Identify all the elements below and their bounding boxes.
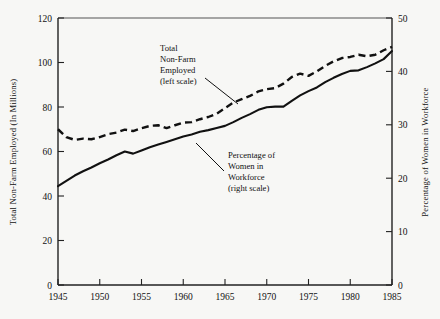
annotation-total-line-4: (left scale) bbox=[160, 76, 197, 86]
x-ticklabel-1950: 1950 bbox=[90, 292, 109, 302]
annotation-total-line-2: Non-Farm bbox=[160, 54, 196, 64]
left-ticklabel-20: 20 bbox=[43, 236, 53, 246]
x-ticklabel-1980: 1980 bbox=[341, 292, 360, 302]
right-axis-title: Percentage of Women in Workforce bbox=[420, 87, 430, 216]
right-ticklabel-0: 0 bbox=[398, 281, 403, 291]
chart-svg: 120 100 80 60 40 20 0 50 40 30 20 10 0 1… bbox=[0, 0, 440, 319]
annotation-women-line-4: (right scale) bbox=[228, 183, 269, 193]
annotation-total-line-3: Employed bbox=[160, 65, 196, 75]
x-ticklabel-1985: 1985 bbox=[383, 292, 402, 302]
right-ticklabel-40: 40 bbox=[398, 67, 408, 77]
chart-figure: 120 100 80 60 40 20 0 50 40 30 20 10 0 1… bbox=[0, 0, 440, 319]
annotation-women-line-2: Women in bbox=[228, 161, 264, 171]
left-ticklabel-40: 40 bbox=[43, 192, 53, 202]
left-ticklabel-80: 80 bbox=[43, 103, 53, 113]
left-ticklabel-0: 0 bbox=[47, 281, 52, 291]
chart-background bbox=[0, 0, 440, 319]
left-ticklabel-100: 100 bbox=[38, 58, 53, 68]
right-ticklabel-50: 50 bbox=[398, 14, 408, 24]
x-ticklabel-1960: 1960 bbox=[174, 292, 193, 302]
annotation-total-line-1: Total bbox=[160, 43, 178, 53]
x-ticklabel-1970: 1970 bbox=[257, 292, 276, 302]
annotation-women-line-3: Workforce bbox=[228, 172, 265, 182]
left-ticklabel-60: 60 bbox=[43, 147, 53, 157]
x-ticklabel-1955: 1955 bbox=[132, 292, 151, 302]
left-ticklabel-120: 120 bbox=[38, 14, 53, 24]
right-ticklabel-10: 10 bbox=[398, 227, 408, 237]
x-ticklabel-1965: 1965 bbox=[216, 292, 235, 302]
x-ticklabel-1945: 1945 bbox=[49, 292, 68, 302]
right-ticklabel-20: 20 bbox=[398, 174, 408, 184]
x-ticklabel-1975: 1975 bbox=[299, 292, 318, 302]
left-axis-title: Total Non-Farm Employed (In Millions) bbox=[8, 79, 18, 226]
annotation-women-line-1: Percentage of bbox=[228, 150, 275, 160]
right-ticklabel-30: 30 bbox=[398, 120, 408, 130]
